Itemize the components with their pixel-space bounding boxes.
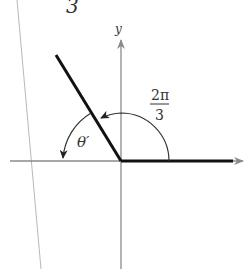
svg-text:3: 3	[155, 107, 164, 123]
angle-label-2pi-over-3: 2π 3	[150, 87, 169, 123]
angle-diagram: 3 y 2π 3 θ′	[0, 0, 252, 269]
y-axis-label: y	[114, 22, 122, 36]
page-margin-line	[17, 0, 41, 269]
reference-angle-label: θ′	[77, 133, 90, 151]
top-fragment-text: 3	[66, 0, 79, 18]
svg-text:2π: 2π	[151, 87, 169, 103]
